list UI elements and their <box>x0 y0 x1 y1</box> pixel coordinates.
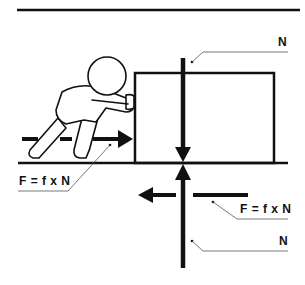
diagram-canvas <box>0 0 305 285</box>
label-friction-left: F = f x N <box>19 175 71 187</box>
label-normal-bottom: N <box>279 235 288 247</box>
label-normal-top: N <box>278 36 287 48</box>
box <box>135 73 274 163</box>
label-friction-right: F = f x N <box>240 203 292 215</box>
normal-force-up-arrow <box>175 164 191 268</box>
friction-force-arrow <box>138 187 248 203</box>
friction-diagram: N F = f x N F = f x N N <box>0 0 305 285</box>
leader-lines <box>18 52 288 251</box>
